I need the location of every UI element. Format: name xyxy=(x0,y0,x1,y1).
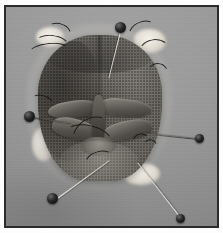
image-caption: Grayscale macro photograph of a dissecte… xyxy=(0,0,1,1)
pin-left-head xyxy=(24,111,35,122)
pin-right-head xyxy=(195,134,204,143)
figure-root: Grayscale macro photograph of a dissecte… xyxy=(0,0,223,233)
pin-bottom-left-head xyxy=(47,193,58,204)
photo-frame xyxy=(4,5,219,228)
insect-head-specimen xyxy=(32,21,166,189)
pin-bottom-right-head xyxy=(176,214,185,223)
maxillary-palp-right xyxy=(99,96,153,119)
pin-top-head xyxy=(115,22,126,33)
